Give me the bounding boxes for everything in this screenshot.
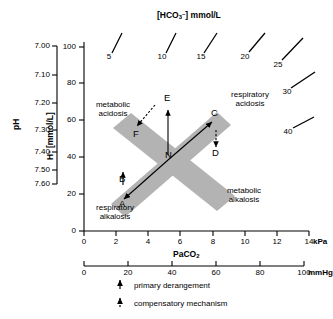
ph-tick-label-700: 7.00 [16, 42, 50, 50]
isopleth-30 [291, 72, 315, 88]
kpa-tick-label-0: 0 [76, 238, 92, 246]
ph-tick-label-760: 7.60 [16, 180, 50, 188]
isopleth-40 [293, 117, 314, 128]
zone-metabolic-alkalosis: metabolic alkalosis [215, 186, 273, 204]
node-label-C: C [211, 108, 218, 118]
kpa-tick-label-8: 8 [205, 238, 221, 246]
hco3-label-40: 40 [279, 128, 297, 136]
x-axis-mmhg [84, 261, 304, 266]
h-tick-label-100: 100 [52, 43, 76, 51]
hco3-formula: [HCO3–] [157, 10, 188, 20]
acid-base-diagram: [HCO3–] mmol/L 5 10 15 20 25 30 40 7.00 … [0, 0, 333, 319]
h-tick-label-20: 20 [52, 190, 76, 198]
node-label-N: N [165, 150, 172, 160]
mmhg-tick-label-40: 40 [163, 269, 181, 277]
hco3-label-25: 25 [269, 61, 287, 69]
isopleth-15 [204, 33, 217, 53]
zone-respiratory-acidosis: respiratory acidosis [219, 90, 281, 108]
hco3-label-10: 10 [153, 53, 171, 61]
isopleth-10 [166, 33, 176, 53]
kpa-tick-label-4: 4 [140, 238, 156, 246]
node-label-A: A [119, 199, 125, 209]
ph-tick-label-750: 7.50 [16, 166, 50, 174]
hco3-axis-title: [HCO3–] mmol/L [157, 11, 221, 21]
node-label-E: E [164, 93, 170, 103]
h-tick-label-80: 80 [52, 79, 76, 87]
ph-tick-label-710: 7.10 [16, 71, 50, 79]
hco3-unit: mmol/L [191, 10, 221, 20]
kpa-unit-label: kPa [313, 238, 327, 246]
h-tick-label-60: 60 [52, 116, 76, 124]
h-axis-label: H+ [mmol/L] [46, 112, 55, 160]
isopleth-5 [112, 33, 122, 53]
hco3-label-5: 5 [102, 53, 116, 61]
mmhg-tick-label-80: 80 [251, 269, 269, 277]
kpa-tick-label-10: 10 [237, 238, 253, 246]
hco3-label-20: 20 [236, 53, 254, 61]
zone-metabolic-acidosis: metabolic acidosis [86, 100, 140, 118]
ph-axis-label: pH [12, 119, 21, 130]
h-tick-label-40: 40 [52, 153, 76, 161]
legend-primary-label: primary derangement [134, 282, 210, 290]
kpa-tick-label-6: 6 [172, 238, 188, 246]
x-axis-label: PaCO2 [173, 250, 199, 260]
node-label-D: D [212, 148, 219, 158]
isopleth-25 [282, 38, 303, 60]
ph-tick-label-720: 7.20 [16, 99, 50, 107]
mmhg-tick-label-20: 20 [119, 269, 137, 277]
isopleth-20 [249, 33, 265, 52]
h-tick-label-0: 0 [52, 227, 76, 235]
zone-respiratory-alkalosis: respiratory alkalosis [84, 203, 146, 221]
mmhg-unit-label: mmHg [308, 269, 333, 277]
node-label-B: B [119, 174, 125, 184]
kpa-tick-label-2: 2 [108, 238, 124, 246]
hco3-label-15: 15 [192, 53, 210, 61]
legend-compensatory-label: compensatory mechanism [134, 300, 227, 308]
kpa-tick-label-12: 12 [269, 238, 285, 246]
mmhg-tick-label-0: 0 [76, 269, 92, 277]
x-axis-kpa [84, 231, 309, 236]
node-label-F: F [133, 129, 139, 139]
mmhg-tick-label-60: 60 [207, 269, 225, 277]
